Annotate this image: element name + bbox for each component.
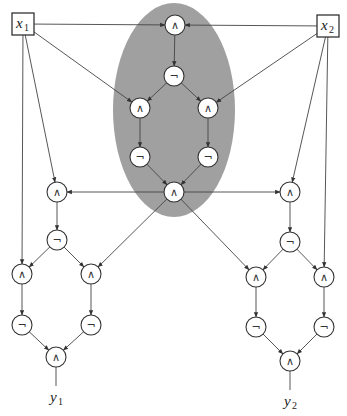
and-gate-r4: ∧ xyxy=(314,267,334,287)
and-gate-g4: ∧ xyxy=(198,98,218,118)
wire-x1-g3 xyxy=(34,32,132,102)
wire-x1-l1 xyxy=(25,35,55,182)
and-gate-g1: ∧ xyxy=(165,15,185,35)
and-symbol: ∧ xyxy=(136,102,144,115)
and-gate-l3: ∧ xyxy=(12,264,32,284)
and-gate-r7: ∧ xyxy=(280,351,300,371)
not-symbol: ¬ xyxy=(285,236,294,249)
not-symbol: ¬ xyxy=(52,234,61,247)
wire-x2-g4 xyxy=(216,34,317,103)
and-gate-r1: ∧ xyxy=(280,182,300,202)
not-symbol: ¬ xyxy=(135,151,144,164)
and-symbol: ∧ xyxy=(52,351,60,364)
and-symbol: ∧ xyxy=(87,268,95,281)
not-gate-l6: ¬ xyxy=(81,315,101,335)
not-gate-r5: ¬ xyxy=(246,317,266,337)
not-gate-g2: ¬ xyxy=(164,66,184,86)
wire-r6-r7 xyxy=(297,334,317,354)
wire-x2-r4 xyxy=(324,37,328,267)
and-symbol: ∧ xyxy=(286,186,294,199)
and-gate-r3: ∧ xyxy=(246,267,266,287)
input-x2: x2 xyxy=(317,15,339,37)
svg-text:x: x xyxy=(15,15,23,31)
svg-text:y: y xyxy=(282,393,291,409)
not-gate-g6: ¬ xyxy=(198,147,218,167)
not-gate-g5: ¬ xyxy=(130,147,150,167)
svg-text:2: 2 xyxy=(329,24,334,35)
gates: ∧¬∧∧¬¬∧∧¬∧∧¬¬∧∧¬∧∧¬¬∧ xyxy=(12,15,334,371)
not-symbol: ¬ xyxy=(17,319,26,332)
and-gate-g3: ∧ xyxy=(130,98,150,118)
and-symbol: ∧ xyxy=(171,19,179,32)
and-gate-g7: ∧ xyxy=(164,182,184,202)
wire-l2-l4 xyxy=(64,247,84,267)
svg-text:2: 2 xyxy=(292,400,297,411)
not-symbol: ¬ xyxy=(251,321,260,334)
not-symbol: ¬ xyxy=(86,319,95,332)
not-gate-r2: ¬ xyxy=(280,232,300,252)
svg-text:y: y xyxy=(48,389,57,405)
output-y2: y2 xyxy=(282,393,297,411)
wire-x1-l3 xyxy=(22,35,23,264)
and-symbol: ∧ xyxy=(204,102,212,115)
and-symbol: ∧ xyxy=(170,186,178,199)
not-gate-r6: ¬ xyxy=(314,317,334,337)
wire-x2-r1 xyxy=(292,37,325,182)
svg-text:1: 1 xyxy=(24,22,29,33)
circuit-canvas: ∧¬∧∧¬¬∧∧¬∧∧¬¬∧∧¬∧∧¬¬∧ x1x2y1y2 xyxy=(0,0,347,416)
and-gate-l4: ∧ xyxy=(81,264,101,284)
and-gate-l1: ∧ xyxy=(47,182,67,202)
svg-text:1: 1 xyxy=(58,396,63,407)
wire-g1-g2 xyxy=(174,35,175,66)
and-symbol: ∧ xyxy=(320,271,328,284)
wire-l6-l7 xyxy=(63,332,83,351)
wire-l5-l7 xyxy=(29,332,48,350)
not-gate-l5: ¬ xyxy=(12,315,32,335)
wire-l2-l3 xyxy=(29,247,50,267)
wire-g7-r3 xyxy=(181,199,249,270)
output-y1: y1 xyxy=(48,389,63,407)
not-symbol: ¬ xyxy=(169,70,178,83)
and-symbol: ∧ xyxy=(252,271,260,284)
and-gate-l7: ∧ xyxy=(46,347,66,367)
wire-g7-l4 xyxy=(98,199,167,267)
not-gate-l2: ¬ xyxy=(47,230,67,250)
and-symbol: ∧ xyxy=(53,186,61,199)
circuit-diagram: ∧¬∧∧¬¬∧∧¬∧∧¬¬∧∧¬∧∧¬¬∧ x1x2y1y2 xyxy=(0,0,347,416)
input-x1: x1 xyxy=(12,13,34,35)
wire-r5-r7 xyxy=(263,334,283,354)
svg-text:x: x xyxy=(320,17,328,33)
wire-r2-r3 xyxy=(263,249,283,270)
not-symbol: ¬ xyxy=(203,151,212,164)
and-symbol: ∧ xyxy=(286,355,294,368)
and-symbol: ∧ xyxy=(18,268,26,281)
wire-r2-r4 xyxy=(297,249,317,270)
not-symbol: ¬ xyxy=(319,321,328,334)
